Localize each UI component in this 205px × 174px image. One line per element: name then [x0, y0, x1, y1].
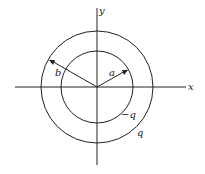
inner-charge-label: −q: [121, 109, 136, 120]
radius-b-label: b: [55, 67, 61, 78]
diagram-canvas: x y b a −q q: [0, 0, 205, 174]
x-axis-label: x: [188, 81, 194, 92]
outer-charge-label: q: [137, 127, 143, 138]
y-axis-label: y: [98, 5, 105, 16]
radius-a-label: a: [109, 67, 115, 78]
